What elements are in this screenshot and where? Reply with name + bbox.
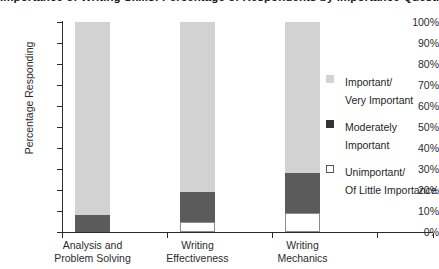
bar-stack bbox=[285, 22, 320, 232]
legend-item-label: Moderately Important bbox=[345, 121, 397, 151]
x-axis-tick bbox=[167, 233, 168, 238]
legend-item-label: Important/ Very Important bbox=[345, 76, 413, 106]
legend-item[interactable]: Important/ Very Important bbox=[326, 72, 439, 108]
x-axis-tick bbox=[62, 233, 63, 238]
y-axis-tick bbox=[57, 43, 62, 44]
bar-segment bbox=[285, 173, 320, 213]
y-axis-tick-label: 0% bbox=[387, 226, 439, 238]
chart-title: Importance of Writing Skills: Percentage… bbox=[0, 0, 439, 3]
y-axis-tick bbox=[57, 22, 62, 23]
chart-container: Importance of Writing Skills: Percentage… bbox=[0, 0, 439, 269]
y-axis-tick bbox=[57, 148, 62, 149]
bar-segment bbox=[75, 22, 110, 215]
y-axis-tick-label: 90% bbox=[387, 37, 439, 49]
y-axis-tick bbox=[57, 169, 62, 170]
chart-legend: Important/ Very ImportantModerately Impo… bbox=[326, 72, 439, 207]
bar-segment bbox=[180, 22, 215, 192]
legend-item[interactable]: Unimportant/ Of Little Importance bbox=[326, 162, 439, 198]
x-axis-tick bbox=[433, 233, 434, 238]
x-axis-tick bbox=[377, 233, 378, 238]
bar-segment bbox=[75, 215, 110, 232]
x-axis-category-label: WritingMechanics bbox=[237, 239, 369, 265]
y-axis-tick bbox=[57, 85, 62, 86]
y-axis-tick bbox=[57, 127, 62, 128]
legend-swatch-icon bbox=[326, 120, 334, 128]
bar-segment bbox=[285, 213, 320, 232]
bar-segment bbox=[285, 22, 320, 173]
y-axis-tick bbox=[57, 106, 62, 107]
bar-stack bbox=[75, 22, 110, 232]
bar-stack bbox=[180, 22, 215, 232]
legend-swatch-icon bbox=[326, 165, 334, 173]
plot-area bbox=[63, 22, 327, 232]
y-axis-tick-label: 100% bbox=[387, 16, 439, 28]
bar-segment bbox=[180, 192, 215, 221]
y-axis-tick-label: 80% bbox=[387, 58, 439, 70]
y-axis-tick bbox=[57, 211, 62, 212]
category-label-line: Mechanics bbox=[237, 252, 369, 265]
bar-segment bbox=[180, 222, 215, 233]
y-axis-tick bbox=[57, 64, 62, 65]
legend-item[interactable]: Moderately Important bbox=[326, 117, 439, 153]
x-axis-tick bbox=[272, 233, 273, 238]
y-axis-title: Percentage Responding bbox=[23, 13, 35, 183]
legend-item-label: Unimportant/ Of Little Importance bbox=[345, 166, 437, 196]
legend-swatch-icon bbox=[326, 75, 334, 83]
category-label-line: Writing bbox=[237, 239, 369, 252]
y-axis-tick bbox=[57, 190, 62, 191]
